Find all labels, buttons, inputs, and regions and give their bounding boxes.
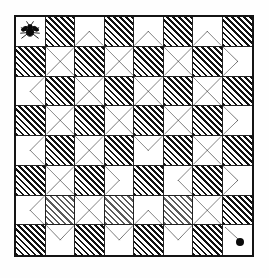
path-right (223, 47, 253, 76)
figure-canvas: Chessboard fly path puzzle 8 by 8 checke… (0, 0, 269, 278)
board-square-r4c1[interactable] (16, 106, 46, 136)
board-square-r1c2[interactable] (46, 17, 76, 47)
board-square-r5c2[interactable] (46, 136, 76, 166)
board-square-r5c5[interactable] (134, 136, 164, 166)
board-square-r6c8[interactable] (223, 166, 253, 196)
path-right (223, 166, 253, 195)
board-square-r4c2[interactable] (46, 106, 76, 136)
board-square-r1c7[interactable] (193, 17, 223, 47)
board-square-r6c2[interactable] (46, 166, 76, 196)
board-square-r6c5[interactable] (134, 166, 164, 196)
board-square-r3c4[interactable] (105, 77, 135, 107)
target-dot-icon (236, 238, 244, 246)
board-square-r7c7[interactable] (193, 196, 223, 226)
path-cross (105, 47, 134, 76)
fly-icon (19, 20, 41, 42)
board-square-r8c7[interactable] (193, 225, 223, 255)
board-square-r7c6[interactable] (164, 196, 194, 226)
path-cross (193, 136, 222, 165)
board-square-r1c5[interactable] (134, 17, 164, 47)
path-cross (46, 166, 75, 195)
board-square-r5c6[interactable] (164, 136, 194, 166)
board-square-r4c6[interactable] (164, 106, 194, 136)
path-cross (75, 77, 104, 106)
board-square-r5c7[interactable] (193, 136, 223, 166)
path-left (16, 196, 45, 225)
board-square-r5c1[interactable] (16, 136, 46, 166)
board-square-r4c4[interactable] (105, 106, 135, 136)
path-up (193, 17, 222, 46)
figure-description: 8 by 8 checkered board with diagonal das… (0, 0, 1, 1)
path-cross (46, 106, 75, 135)
board-square-r2c8[interactable] (223, 47, 253, 77)
board-square-r7c5[interactable] (134, 196, 164, 226)
path-left (164, 166, 193, 195)
board-square-r8c2[interactable] (46, 225, 76, 255)
path-cross (193, 77, 222, 106)
board-square-r3c8[interactable] (223, 77, 253, 107)
board-square-r1c3[interactable] (75, 17, 105, 47)
board-square-r6c3[interactable] (75, 166, 105, 196)
board-square-r2c5[interactable] (134, 47, 164, 77)
path-cross (75, 196, 104, 225)
board-square-r8c3[interactable] (75, 225, 105, 255)
path-up (134, 196, 163, 225)
board-square-r2c6[interactable] (164, 47, 194, 77)
figure-title: Chessboard fly path puzzle (0, 0, 1, 1)
path-down (105, 225, 134, 255)
board-square-r6c7[interactable] (193, 166, 223, 196)
board-square-r5c4[interactable] (105, 136, 135, 166)
chessboard-wrapper (14, 15, 254, 257)
board-square-r5c8[interactable] (223, 136, 253, 166)
board-square-r2c4[interactable] (105, 47, 135, 77)
path-left (16, 136, 45, 165)
board-square-r3c7[interactable] (193, 77, 223, 107)
board-square-r4c8[interactable] (223, 106, 253, 136)
board-square-r2c3[interactable] (75, 47, 105, 77)
board-square-r7c2[interactable] (46, 196, 76, 226)
board-square-r7c4[interactable] (105, 196, 135, 226)
board-square-r8c6[interactable] (164, 225, 194, 255)
board-square-r3c3[interactable] (75, 77, 105, 107)
path-cross (46, 47, 75, 76)
board-square-r5c3[interactable] (75, 136, 105, 166)
path-up (75, 17, 104, 46)
board-square-r4c3[interactable] (75, 106, 105, 136)
path-up (134, 17, 163, 46)
path-cross (105, 106, 134, 135)
board-square-r8c8[interactable] (223, 225, 253, 255)
board-square-r6c4[interactable] (105, 166, 135, 196)
path-right (223, 106, 253, 135)
board-square-r8c1[interactable] (16, 225, 46, 255)
board-square-r7c1[interactable] (16, 196, 46, 226)
board-square-r7c8[interactable] (223, 196, 253, 226)
board-square-r8c5[interactable] (134, 225, 164, 255)
path-cross (193, 196, 222, 225)
board-square-r2c1[interactable] (16, 47, 46, 77)
board-square-r4c5[interactable] (134, 106, 164, 136)
board-square-r3c5[interactable] (134, 77, 164, 107)
board-square-r8c4[interactable] (105, 225, 135, 255)
board-square-r7c3[interactable] (75, 196, 105, 226)
board-square-r3c2[interactable] (46, 77, 76, 107)
board-square-r2c2[interactable] (46, 47, 76, 77)
board-square-r2c7[interactable] (193, 47, 223, 77)
board-square-r4c7[interactable] (193, 106, 223, 136)
board-square-r1c6[interactable] (164, 17, 194, 47)
board-square-r1c1[interactable] (16, 17, 46, 47)
path-cross (164, 47, 193, 76)
board-square-r6c6[interactable] (164, 166, 194, 196)
path-left (16, 77, 45, 106)
board-square-r3c1[interactable] (16, 77, 46, 107)
path-down (134, 136, 163, 165)
path-down (46, 225, 75, 255)
board-square-r3c6[interactable] (164, 77, 194, 107)
chessboard[interactable] (14, 15, 254, 257)
board-square-r1c4[interactable] (105, 17, 135, 47)
board-square-r6c1[interactable] (16, 166, 46, 196)
path-cross (164, 106, 193, 135)
board-square-r1c8[interactable] (223, 17, 253, 47)
path-cross (134, 77, 163, 106)
path-right (105, 166, 134, 195)
path-down (164, 225, 193, 255)
